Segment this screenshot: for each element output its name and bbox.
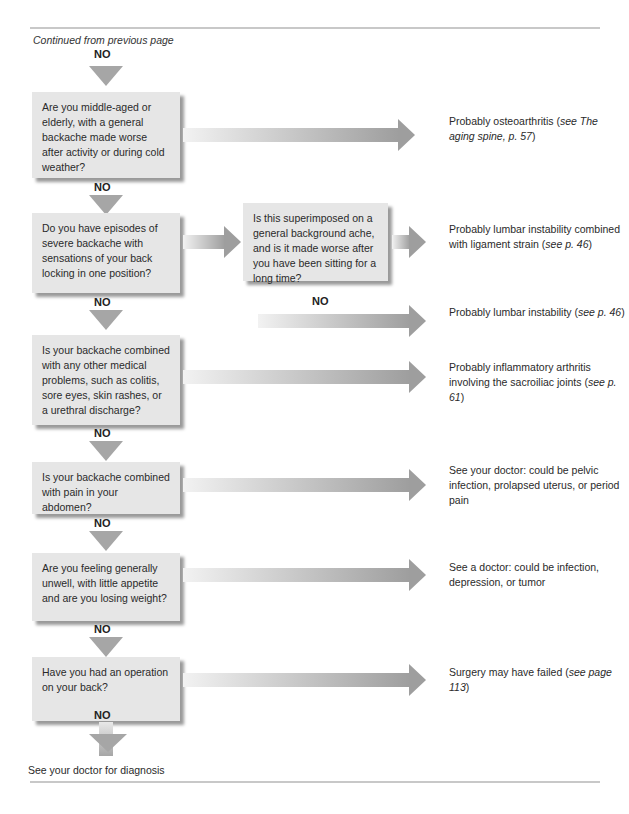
outcome-1: Probably osteoarthritis (see The aging s… <box>449 114 609 144</box>
no-label: NO <box>94 427 111 439</box>
no-label: NO <box>94 181 111 193</box>
arrow-head <box>398 119 415 151</box>
no-arrow-2b <box>258 314 410 328</box>
down-arrow <box>89 66 123 86</box>
question-box-3: Is your backache combined with any other… <box>32 335 180 425</box>
down-arrow <box>89 195 123 215</box>
no-label: NO <box>94 517 111 529</box>
outcome-4: Probably inflammatory arthritis involvin… <box>449 360 629 405</box>
outcome-3: Probably lumbar instability (see p. 46) <box>449 305 629 320</box>
outcome-7: Surgery may have failed (see page 113) <box>449 665 629 695</box>
no-label: NO <box>312 295 329 307</box>
arrow-head <box>409 226 426 258</box>
yes-arrow-1 <box>183 128 399 142</box>
no-label: NO <box>94 623 111 635</box>
question-box-2b: Is this superimposed on a general backgr… <box>243 203 388 281</box>
arrow-head <box>224 226 241 258</box>
final-down-arrow <box>89 734 127 752</box>
no-label: NO <box>94 48 111 60</box>
arrow-head <box>409 305 426 337</box>
question-box-2: Do you have episodes of severe backache … <box>32 213 180 293</box>
final-outcome: See your doctor for diagnosis <box>28 764 165 776</box>
outcome-2: Probably lumbar instability combined wit… <box>449 222 629 252</box>
arrow-head <box>409 469 426 501</box>
down-arrow <box>89 310 123 330</box>
down-arrow <box>89 637 123 657</box>
yes-arrow-6 <box>183 673 410 687</box>
down-arrow <box>89 531 123 551</box>
yes-arrow-5 <box>183 568 410 582</box>
yes-arrow-2 <box>183 235 225 249</box>
arrow-head <box>409 664 426 696</box>
question-box-1: Are you middle-aged or elderly, with a g… <box>32 92 180 178</box>
arrow-head <box>409 361 426 393</box>
bottom-rule <box>30 781 600 783</box>
outcome-6: See a doctor: could be infection, depres… <box>449 560 629 590</box>
question-box-5: Are you feeling generally unwell, with l… <box>32 553 180 621</box>
yes-arrow-2b <box>392 235 410 249</box>
arrow-head <box>409 559 426 591</box>
yes-arrow-4 <box>183 478 410 492</box>
outcome-5: See your doctor: could be pelvic infecti… <box>449 463 629 508</box>
yes-arrow-3 <box>183 370 410 384</box>
top-rule <box>30 27 600 29</box>
no-label: NO <box>94 296 111 308</box>
question-box-4: Is your backache combined with pain in y… <box>32 462 180 514</box>
continued-caption: Continued from previous page <box>33 34 174 46</box>
no-label: NO <box>94 709 111 721</box>
down-arrow <box>89 441 123 461</box>
